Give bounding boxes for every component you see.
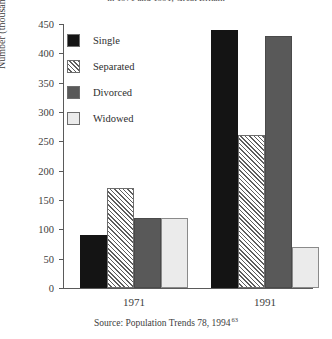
bar-widowed-1991 — [292, 247, 319, 288]
legend-item-divorced: Divorced — [67, 79, 192, 105]
y-tick-mark — [59, 24, 63, 25]
y-tick-label: 150 — [38, 195, 54, 206]
y-tick-mark — [59, 259, 63, 260]
y-tick-mark — [59, 200, 63, 201]
legend-label: Separated — [93, 61, 134, 72]
legend-item-widowed: Widowed — [67, 105, 192, 131]
y-tick-label: 50 — [44, 253, 55, 264]
source-superscript: 63 — [231, 316, 238, 323]
legend-label: Widowed — [93, 113, 133, 124]
chart-title-cropped: in 1971 and 1991, Great Britain — [0, 0, 332, 9]
y-tick-mark — [59, 141, 63, 142]
y-tick-label: 250 — [38, 136, 54, 147]
bar-single-1991 — [211, 30, 238, 288]
x-axis-line — [63, 288, 313, 289]
y-tick-label: 200 — [38, 165, 54, 176]
legend-label: Divorced — [93, 87, 132, 98]
y-axis-line — [63, 24, 64, 289]
y-tick-label: 350 — [38, 77, 54, 88]
y-tick-mark — [59, 288, 63, 289]
source-text: Source: Population Trends 78, 1994 — [94, 318, 230, 328]
legend-item-separated: Separated — [67, 53, 192, 79]
y-tick-label: 450 — [38, 19, 54, 30]
bar-widowed-1971 — [161, 218, 188, 288]
source-note: Source: Population Trends 78, 199463 — [0, 316, 332, 328]
y-tick-label: 400 — [38, 48, 54, 59]
y-tick-mark — [59, 53, 63, 54]
legend-swatch-divorced — [67, 86, 80, 99]
bar-single-1971 — [80, 235, 107, 288]
chart-legend: SingleSeparatedDivorcedWidowed — [67, 27, 192, 131]
chart-title-text: in 1971 and 1991, Great Britain — [0, 0, 332, 3]
y-tick-mark — [59, 112, 63, 113]
legend-label: Single — [93, 35, 120, 46]
y-tick-mark — [59, 83, 63, 84]
bar-divorced-1991 — [265, 36, 292, 288]
x-group-label-1991: 1991 — [254, 296, 276, 308]
y-tick-mark — [59, 171, 63, 172]
y-tick-mark — [59, 229, 63, 230]
y-tick-label: 100 — [38, 224, 54, 235]
y-tick-label: 0 — [49, 283, 54, 294]
legend-swatch-widowed — [67, 112, 80, 125]
legend-item-single: Single — [67, 27, 192, 53]
bar-separated-1971 — [107, 188, 134, 288]
legend-swatch-separated — [67, 60, 80, 73]
bar-separated-1991 — [238, 135, 265, 288]
y-axis-tick-labels: 050100150200250300350400450 — [0, 24, 60, 289]
y-tick-label: 300 — [38, 107, 54, 118]
bar-divorced-1971 — [134, 218, 161, 288]
x-group-label-1971: 1971 — [123, 296, 145, 308]
legend-swatch-single — [67, 34, 80, 47]
